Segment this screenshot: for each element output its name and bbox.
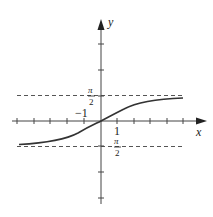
svg-text:2: 2: [115, 148, 120, 158]
upper-pi-over-2-label: π 2: [88, 85, 95, 107]
arctan-plot: y x −1 1 π 2 π 2: [0, 0, 213, 217]
svg-text:π: π: [88, 85, 93, 95]
svg-text:π: π: [114, 136, 119, 146]
x-axis-label: x: [195, 125, 202, 139]
svg-text:2: 2: [89, 97, 94, 107]
lower-pi-over-2-label: π 2: [114, 136, 121, 158]
neg-one-label: −1: [75, 106, 88, 120]
x-axis-arrow-icon: [196, 118, 207, 125]
y-axis-label: y: [107, 15, 114, 29]
y-axis-arrow-icon: [98, 19, 105, 30]
